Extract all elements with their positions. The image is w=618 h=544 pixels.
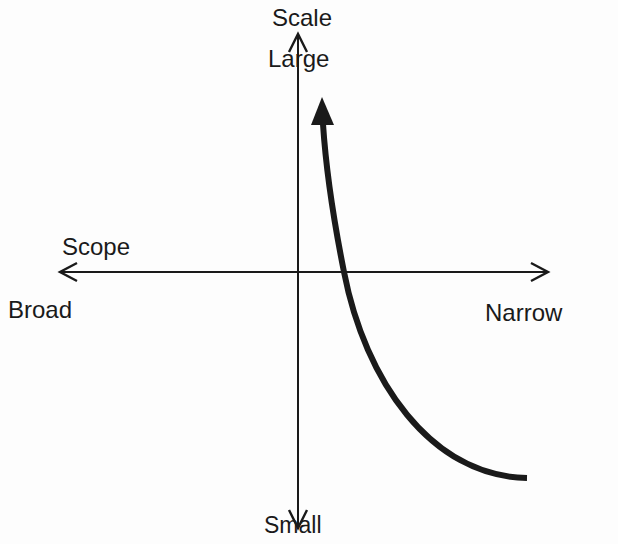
trend-curve	[311, 97, 527, 478]
narrow-end-label: Narrow	[485, 301, 562, 325]
broad-end-label: Broad	[8, 298, 72, 322]
vertical-axis	[289, 34, 307, 528]
scope-axis-label: Scope	[62, 235, 130, 259]
diagram-canvas	[0, 0, 618, 544]
small-end-label: Small	[264, 514, 322, 537]
large-end-label: Large	[268, 47, 329, 71]
horizontal-axis	[60, 263, 548, 281]
scale-axis-label: Scale	[272, 6, 332, 30]
curve-arrowhead-icon	[311, 97, 334, 125]
